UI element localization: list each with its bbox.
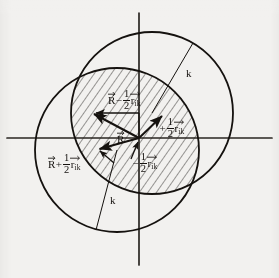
label-operator: − xyxy=(115,94,122,106)
subscript-ik: ik xyxy=(151,162,157,171)
subscript-ik: ik xyxy=(74,163,80,172)
fraction-one-half: 12 xyxy=(167,117,174,139)
vector-R-symbol: R xyxy=(117,133,124,145)
label-operator: + xyxy=(159,122,166,134)
label-k-lower: k xyxy=(110,195,116,206)
label-R-vector: R xyxy=(117,133,124,145)
label-R-plus-half-r: R+12rik xyxy=(48,153,81,175)
vector-r-symbol: rik xyxy=(131,94,141,108)
vector-r-symbol: rik xyxy=(71,158,81,172)
subscript-ik: ik xyxy=(178,127,184,136)
fraction-one-half: 12 xyxy=(123,89,130,111)
vector-diagram-canvas xyxy=(0,0,279,278)
label-R-minus-half-r: R−12rik xyxy=(108,89,141,111)
label-k-upper: k xyxy=(186,68,192,79)
fraction-one-half: 12 xyxy=(63,153,70,175)
vector-R-symbol: R xyxy=(48,158,55,170)
label-operator: − xyxy=(132,157,139,169)
vector-r-symbol: rik xyxy=(147,157,157,171)
label-plus-half-r: +12rik xyxy=(159,117,184,139)
vector-r-symbol: rik xyxy=(174,122,184,136)
label-minus-half-r: −12rik xyxy=(132,152,157,174)
vector-R-symbol: R xyxy=(108,94,115,106)
fraction-one-half: 12 xyxy=(140,152,147,174)
label-operator: + xyxy=(55,158,62,170)
subscript-ik: ik xyxy=(134,99,140,108)
figure-root: R−12rik +12rik R+12rik −12rik R k k xyxy=(0,0,279,278)
